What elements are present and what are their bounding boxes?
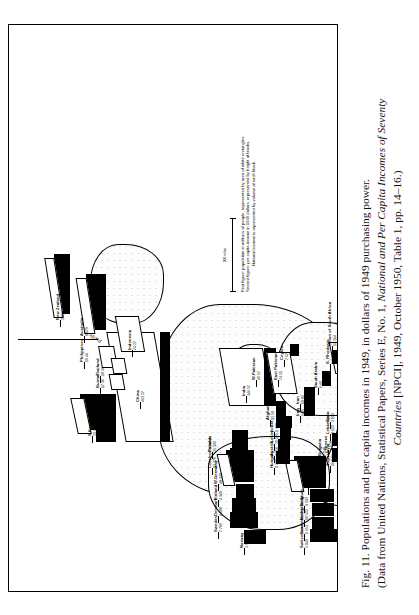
map-label-name: Afghanistan xyxy=(266,395,271,420)
map-label-figures: 25·300 xyxy=(213,438,218,452)
map-label-figures: 18·36 xyxy=(101,358,106,376)
map-label-name: China xyxy=(136,390,141,402)
map-label-figures: 19·85 xyxy=(301,395,306,404)
map-label-thailand: Thailand18·36 xyxy=(96,358,105,376)
block-switzerland xyxy=(310,529,338,542)
map-label-figures: 19·44 xyxy=(85,339,90,362)
block-poland xyxy=(232,430,248,448)
leader-line-lebanon xyxy=(330,434,331,441)
map-label-name: U.K. xyxy=(304,477,309,488)
leader-line-finland xyxy=(218,500,219,507)
legend-text: First figure: population in millions of … xyxy=(240,136,256,292)
map-label-figures: 40·57 xyxy=(257,357,262,380)
caption-italic-1: National and Per Capita Incomes of Seven… xyxy=(375,99,387,302)
legend-body-1: population in millions of people, repres… xyxy=(240,136,245,270)
caption-wrapper: Fig. 11. Populations and per capita inco… xyxy=(345,24,417,592)
map-label-name: Bulgaria xyxy=(318,439,323,456)
caption-text-1: Populations and per capita incomes in 19… xyxy=(359,179,371,550)
map-label-figures: 5·85 xyxy=(301,408,306,416)
figure-plate: Pacific Equator Norway3·587Sweden7·780De… xyxy=(8,24,338,592)
leader-line-s-korea xyxy=(92,436,93,443)
leader-line-australia xyxy=(84,336,85,343)
map-label-syria: Syria3·100 xyxy=(326,411,335,422)
leader-line-new-zealand xyxy=(60,320,61,327)
leader-line-thailand xyxy=(100,376,101,383)
map-label-name: Norway xyxy=(240,533,245,548)
map-label-name: New Zealand xyxy=(56,294,61,320)
figure-number: Fig. 11. xyxy=(359,553,371,588)
caption-line-1: Fig. 11. Populations and per capita inco… xyxy=(357,28,373,588)
leader-line-denmark xyxy=(218,516,219,523)
legend-body-3: National income is represented by volume… xyxy=(251,161,256,266)
legend-line-3: National income is represented by volume… xyxy=(251,136,256,292)
map-label-name: Iran xyxy=(296,395,301,404)
leader-line-philippines xyxy=(84,362,85,369)
leader-line-w-pakistan xyxy=(256,380,257,387)
block-saudi-arabia xyxy=(322,371,331,386)
map-label-figures: 2·161 xyxy=(331,339,336,364)
leader-line-belgium xyxy=(304,506,305,513)
map-label-name: S.Korea xyxy=(88,420,93,436)
block-iraq xyxy=(304,402,315,416)
map-label-india: India346·57 xyxy=(242,385,251,396)
leader-line-netherlands xyxy=(304,520,305,527)
block-afghanistan xyxy=(276,401,286,416)
map-label-w-pakistan: W.Pakistan40·57 xyxy=(252,357,261,380)
block-denmark xyxy=(232,498,256,512)
leader-line-afghanistan xyxy=(270,420,271,427)
map-label-saudi-arabia: Saudi Arabia6·40 xyxy=(314,362,323,388)
leader-line-syria xyxy=(330,422,331,429)
map-label-name: Australia xyxy=(80,318,85,336)
map-label-figures: 7·140 xyxy=(323,439,328,456)
leader-line-india xyxy=(246,396,247,403)
block-iran xyxy=(304,387,315,402)
legend-body-2: per capita income in 1949 dollars, repre… xyxy=(245,141,250,264)
leader-line-turkey xyxy=(274,444,275,451)
leader-line-israel xyxy=(274,432,275,439)
map-label-figures: 346·57 xyxy=(247,385,252,396)
block-sweden xyxy=(230,512,258,528)
map-label-name: Ceylon xyxy=(280,346,285,360)
map-label-s-korea: S.Korea20·49 xyxy=(88,420,97,436)
block-belgium xyxy=(310,489,334,502)
map-label-norway: Norway3·587 xyxy=(240,533,249,548)
block-netherlands xyxy=(312,503,334,516)
map-label-china: China463·27 xyxy=(136,390,145,402)
leader-line-china xyxy=(140,402,141,409)
leader-line-czechoslovakia xyxy=(212,468,213,475)
rotated-map-stage: Pacific Equator Norway3·587Sweden7·780De… xyxy=(8,24,338,592)
leader-line-switzerland xyxy=(304,548,305,555)
figure-page: Pacific Equator Norway3·587Sweden7·780De… xyxy=(0,0,419,615)
leader-line-w-germany xyxy=(218,484,219,491)
block-thailand-top xyxy=(111,358,128,374)
leader-line-iraq xyxy=(300,416,301,423)
map-label-figures: 463·27 xyxy=(141,390,146,402)
leader-line-poland xyxy=(212,452,213,459)
leader-line-sweden xyxy=(218,532,219,539)
map-label-figures: 17·36 xyxy=(101,375,106,388)
map-label-name: Belgium xyxy=(300,489,305,506)
map-label-poland: Poland25·300 xyxy=(208,438,217,452)
map-label-figures: 3·587 xyxy=(245,533,250,548)
block-china-side xyxy=(160,332,170,442)
block-czechoslovakia xyxy=(230,448,248,464)
caption-line-2: (Data from United Nations, Statistical P… xyxy=(373,28,389,588)
map-label-figures: 2·856 xyxy=(61,294,66,320)
map-label-figures: 48·320 xyxy=(219,461,224,484)
map-label-name: W.Pakistan xyxy=(252,357,257,380)
leader-line-norway xyxy=(244,548,245,555)
leader-line-burma xyxy=(100,388,101,395)
leader-line-bulgaria xyxy=(322,456,323,463)
ocean-label-pacific: Pacific xyxy=(88,333,103,344)
scale-bar-label: 500 miles xyxy=(223,218,227,292)
map-label-name: Thailand xyxy=(96,358,101,376)
leader-line-yugoslavia xyxy=(330,466,331,473)
caption-text-3: [NPCI], 1949, October 1950, Table 1, pp.… xyxy=(391,171,403,401)
map-label-figures: 7·780 xyxy=(219,516,224,532)
block-luxembourg xyxy=(312,517,334,529)
leader-line-uk xyxy=(308,488,309,495)
figure-caption: Fig. 11. Populations and per capita inco… xyxy=(357,28,405,588)
block-s-korea xyxy=(96,428,116,442)
map-label-iran: Iran19·85 xyxy=(296,395,305,404)
map-label-name: S. Rhodesia xyxy=(326,339,331,364)
